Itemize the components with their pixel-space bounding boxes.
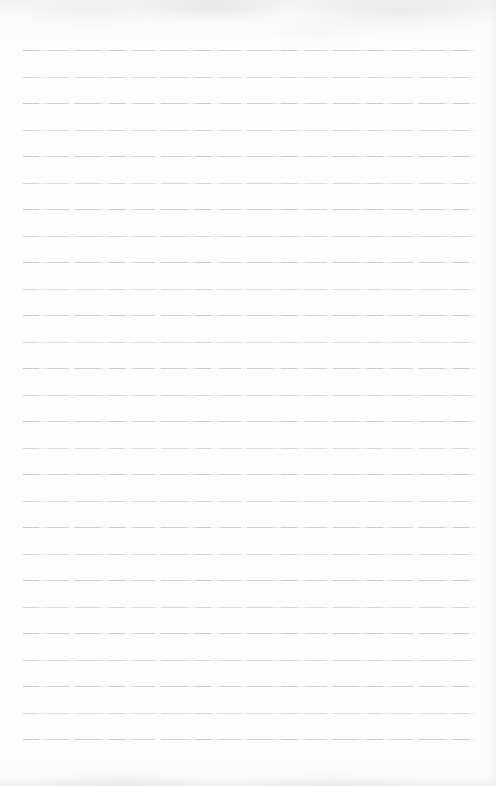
ruled-line — [23, 209, 475, 210]
ruled-line — [23, 262, 475, 263]
bottom-edge-shading — [0, 764, 496, 786]
ruled-line — [23, 474, 475, 475]
ruled-line — [23, 50, 475, 51]
ruled-line — [23, 342, 475, 343]
ruled-line — [23, 580, 475, 581]
ruled-line — [23, 395, 475, 396]
ruled-line — [23, 315, 475, 316]
top-edge-shading — [0, 0, 496, 48]
ruled-line — [23, 448, 475, 449]
ruled-line — [23, 103, 475, 104]
ruled-line — [23, 501, 475, 502]
notebook-page — [0, 0, 496, 786]
ruled-line — [23, 713, 475, 714]
ruled-line — [23, 739, 475, 740]
ruled-line — [23, 686, 475, 687]
ruled-line — [23, 156, 475, 157]
ruled-line — [23, 368, 475, 369]
ruled-line — [23, 660, 475, 661]
ruled-line — [23, 421, 475, 422]
ruled-line — [23, 607, 475, 608]
right-edge-shading — [484, 0, 496, 786]
ruled-line — [23, 130, 475, 131]
ruled-line — [23, 633, 475, 634]
ruled-line — [23, 77, 475, 78]
ruled-line — [23, 183, 475, 184]
ruled-line — [23, 236, 475, 237]
ruled-line — [23, 289, 475, 290]
ruled-line — [23, 554, 475, 555]
ruled-line — [23, 527, 475, 528]
